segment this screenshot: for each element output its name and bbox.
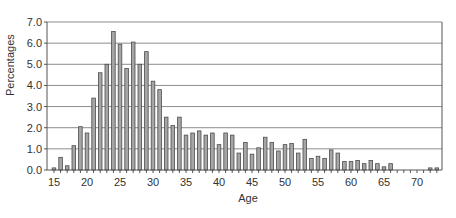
bar-age-19 (79, 127, 83, 170)
bar-age-66 (389, 164, 393, 170)
bar-age-43 (237, 153, 241, 170)
x-tick-label: 50 (279, 176, 291, 188)
bar-age-51 (290, 144, 294, 170)
bar-age-33 (171, 126, 175, 170)
bar-age-30 (151, 81, 155, 170)
x-tick-label: 55 (312, 176, 324, 188)
bar-age-54 (310, 158, 314, 170)
x-tick-label: 70 (411, 176, 423, 188)
bar-age-47 (263, 137, 267, 170)
bar-age-32 (164, 117, 168, 170)
bar-age-52 (296, 153, 300, 170)
bar-age-23 (105, 64, 109, 170)
bar-age-63 (369, 160, 373, 170)
bar-age-16 (59, 157, 63, 170)
bar-age-17 (65, 166, 69, 170)
bar-age-26 (125, 69, 129, 170)
bar-age-25 (118, 44, 122, 170)
x-tick-label: 45 (246, 176, 258, 188)
bar-age-56 (323, 158, 327, 170)
y-tick-label: 6.0 (27, 37, 42, 49)
bar-age-29 (145, 52, 149, 170)
x-tick-label: 25 (114, 176, 126, 188)
bar-age-41 (224, 133, 228, 170)
x-tick-label: 30 (147, 176, 159, 188)
x-tick-label: 15 (48, 176, 60, 188)
bar-age-44 (244, 143, 248, 170)
y-tick-label: 5.0 (27, 58, 42, 70)
bar-age-36 (191, 133, 195, 170)
bar-age-18 (72, 146, 76, 170)
x-axis-label: Age (0, 192, 456, 204)
x-tick-label: 60 (345, 176, 357, 188)
bar-age-27 (131, 42, 135, 170)
bar-age-37 (197, 131, 201, 170)
y-tick-label: 2.0 (27, 122, 42, 134)
bar-age-49 (277, 151, 281, 170)
x-tick-label: 20 (81, 176, 93, 188)
bar-age-48 (270, 143, 274, 170)
bar-age-45 (250, 154, 254, 170)
bar-age-46 (257, 148, 261, 170)
bar-age-55 (316, 156, 320, 170)
bar-age-40 (217, 145, 221, 170)
bar-age-28 (138, 64, 142, 170)
x-tick-label: 65 (378, 176, 390, 188)
x-tick-label: 40 (213, 176, 225, 188)
bar-age-59 (343, 162, 347, 170)
age-distribution-chart: 0.01.02.03.04.05.06.07.01520253035404550… (0, 0, 456, 218)
bar-age-31 (158, 90, 162, 170)
bar-age-38 (204, 135, 208, 170)
x-tick-label: 35 (180, 176, 192, 188)
bar-age-24 (112, 32, 116, 170)
bar-age-50 (283, 145, 287, 170)
bar-age-34 (178, 117, 182, 170)
bar-age-58 (336, 153, 340, 170)
bar-age-53 (303, 139, 307, 170)
y-tick-label: 7.0 (27, 16, 42, 28)
bar-age-42 (230, 135, 234, 170)
bar-age-62 (362, 164, 366, 170)
bar-age-22 (98, 73, 102, 170)
bar-age-39 (211, 133, 215, 170)
y-tick-label: 3.0 (27, 101, 42, 113)
bar-age-21 (92, 98, 96, 170)
bar-age-20 (85, 133, 89, 170)
bar-age-60 (349, 162, 353, 170)
plot-area: 0.01.02.03.04.05.06.07.01520253035404550… (0, 0, 456, 218)
bar-age-61 (356, 160, 360, 170)
y-axis-label: Percentages (4, 34, 16, 96)
y-tick-label: 1.0 (27, 143, 42, 155)
bar-age-35 (184, 135, 188, 170)
bar-age-57 (329, 150, 333, 170)
y-tick-label: 4.0 (27, 79, 42, 91)
y-tick-label: 0.0 (27, 164, 42, 176)
bar-age-64 (376, 164, 380, 170)
